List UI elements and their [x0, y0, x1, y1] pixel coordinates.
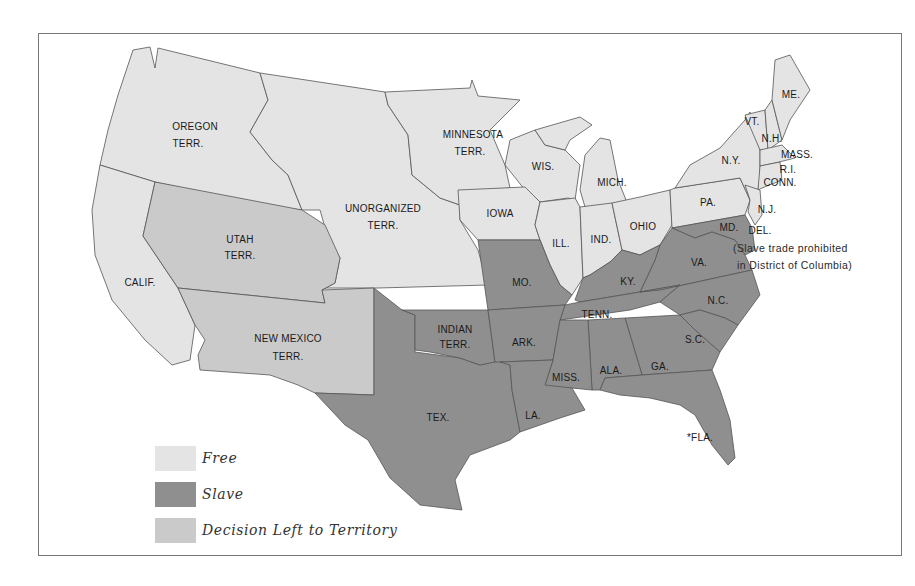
region-fla	[600, 370, 735, 465]
label-mo: MO.	[512, 277, 532, 288]
label-ga: GA.	[651, 361, 669, 372]
label-miss: MISS.	[552, 372, 580, 383]
label-ala: ALA.	[600, 365, 622, 376]
label-me: ME.	[782, 89, 800, 100]
label-nh: N.H.	[762, 133, 783, 144]
label-ny: N.Y.	[722, 155, 741, 166]
legend-label-slave: Slave	[202, 486, 244, 502]
swatch-free-icon	[155, 446, 196, 471]
label-nc: N.C.	[708, 295, 729, 306]
label-minnesota-2: TERR.	[455, 146, 486, 157]
label-new-mexico: NEW MEXICO	[254, 333, 322, 344]
legend-label-free: Free	[202, 450, 237, 466]
label-ohio: OHIO	[630, 221, 656, 232]
swatch-territory-decision-icon	[155, 518, 196, 543]
label-del: DEL.	[748, 225, 771, 236]
label-sc: S.C.	[685, 334, 705, 345]
label-ill: ILL.	[552, 238, 569, 249]
label-indian-2: TERR.	[440, 339, 471, 350]
label-ind: IND.	[591, 234, 612, 245]
label-tenn: TENN.	[582, 309, 613, 320]
legend-item-territory-decision: Decision Left to Territory	[155, 512, 397, 548]
label-vt: VT.	[744, 116, 759, 127]
label-iowa: IOWA	[486, 208, 513, 219]
label-md: MD.	[720, 222, 739, 233]
label-conn: CONN.	[763, 177, 796, 188]
label-wis: WIS.	[532, 161, 554, 172]
label-nj: N.J.	[758, 204, 777, 215]
label-new-mexico-2: TERR.	[273, 351, 304, 362]
label-indian: INDIAN	[437, 324, 472, 335]
swatch-slave-icon	[155, 482, 196, 507]
label-ark: ARK.	[512, 337, 536, 348]
label-la: LA.	[525, 410, 541, 421]
label-unorganized-2: TERR.	[368, 220, 399, 231]
label-ky: KY.	[620, 276, 635, 287]
label-oregon-2: TERR.	[173, 138, 204, 149]
label-oregon: OREGON	[172, 121, 218, 132]
label-va: VA.	[691, 257, 707, 268]
label-unorganized: UNORGANIZED	[345, 203, 421, 214]
label-pa: PA.	[700, 197, 716, 208]
region-ark	[488, 305, 565, 362]
label-tex: TEX.	[426, 412, 449, 423]
label-utah-2: TERR.	[225, 250, 256, 261]
legend-label-territory-decision: Decision Left to Territory	[202, 522, 397, 538]
us-map-1850: OREGON TERR. MINNESOTA TERR. UNORGANIZED…	[0, 0, 915, 586]
label-mass: MASS.	[781, 149, 813, 160]
legend-item-free: Free	[155, 440, 397, 476]
dc-note-line2: in District of Columbia)	[737, 259, 852, 271]
label-utah: UTAH	[226, 234, 253, 245]
label-mich: MICH.	[597, 177, 626, 188]
legend-item-slave: Slave	[155, 476, 397, 512]
map-legend: Free Slave Decision Left to Territory	[155, 440, 397, 548]
label-fla: *FLA.	[687, 432, 713, 443]
label-minnesota: MINNESOTA	[443, 129, 504, 140]
label-ri: R.I.	[780, 164, 796, 175]
dc-note-line1: (Slave trade prohibited	[733, 242, 848, 254]
label-calif: CALIF.	[124, 277, 155, 288]
